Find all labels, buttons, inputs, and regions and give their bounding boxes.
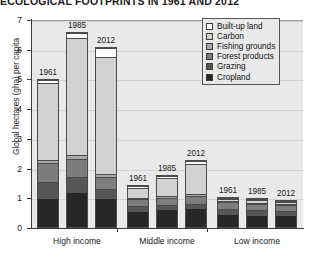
bar-column	[127, 20, 149, 228]
bar-year-label: 1961	[28, 68, 68, 77]
bar-segment	[96, 199, 116, 227]
legend-label: Carbon	[217, 32, 244, 41]
stacked-bar[interactable]	[66, 32, 88, 228]
x-axis-line	[31, 228, 304, 229]
stacked-bar[interactable]	[37, 79, 59, 228]
bar-segment	[128, 212, 148, 227]
bar-segment	[38, 163, 58, 181]
bar-segment	[218, 215, 238, 227]
bar-year-label: 2012	[266, 189, 306, 198]
y-tick	[27, 20, 31, 21]
y-tick-label: 4	[0, 105, 22, 113]
y-tick	[27, 139, 31, 140]
bar-year-label: 1961	[118, 174, 158, 183]
x-tick	[117, 229, 118, 232]
legend-label: Fishing grounds	[217, 42, 275, 51]
legend-item[interactable]: Built-up land	[206, 21, 275, 31]
bar-segment	[96, 48, 116, 58]
bar-year-label: 2012	[176, 149, 216, 158]
bar-segment	[67, 177, 87, 193]
bar-column	[37, 20, 59, 228]
legend-item[interactable]: Cropland	[206, 72, 275, 82]
x-group-label: Low income	[202, 236, 312, 246]
legend-item[interactable]: Forest products	[206, 52, 275, 62]
bar-column	[95, 20, 117, 228]
legend-swatch-icon	[206, 33, 213, 40]
stacked-bar[interactable]	[185, 160, 207, 228]
bar-year-label: 1985	[147, 164, 187, 173]
legend-item[interactable]: Fishing grounds	[206, 41, 275, 51]
bar-segment	[276, 216, 296, 227]
bar-segment	[218, 202, 238, 209]
legend-swatch-icon	[206, 23, 213, 30]
bar-segment	[186, 209, 206, 227]
bar-segment	[38, 83, 58, 161]
legend-swatch-icon	[206, 43, 213, 50]
legend-item[interactable]: Grazing	[206, 62, 275, 72]
y-tick	[27, 228, 31, 229]
stacked-bar[interactable]	[95, 47, 117, 228]
bar-segment	[67, 159, 87, 177]
legend-label: Built-up land	[217, 22, 263, 31]
bar-column	[156, 20, 178, 228]
y-tick-label: 7	[0, 16, 22, 24]
bar-segment	[186, 164, 206, 194]
legend-swatch-icon	[206, 63, 213, 70]
bar-segment	[128, 199, 148, 206]
y-tick-label: 0	[0, 224, 22, 232]
bar-segment	[186, 196, 206, 204]
legend-label: Cropland	[217, 73, 250, 82]
y-tick-label: 3	[0, 135, 22, 143]
bar-segment	[96, 189, 116, 199]
y-tick-label: 5	[0, 75, 22, 83]
chart-figure: ECOLOGICAL FOOTPRINTS IN 1961 AND 2012 G…	[0, 0, 316, 261]
x-tick	[207, 229, 208, 232]
legend: Built-up landCarbonFishing groundsForest…	[202, 18, 280, 85]
legend-item[interactable]: Carbon	[206, 31, 275, 41]
bar-segment	[157, 198, 177, 205]
stacked-bar[interactable]	[127, 185, 149, 228]
bar-segment	[96, 57, 116, 173]
stacked-bar[interactable]	[156, 175, 178, 228]
y-tick	[27, 169, 31, 170]
bar-segment	[247, 216, 267, 227]
y-tick	[27, 109, 31, 110]
y-tick	[27, 50, 31, 51]
bar-column	[66, 20, 88, 228]
bar-segment	[128, 188, 148, 198]
bar-segment	[96, 177, 116, 189]
chart-title: ECOLOGICAL FOOTPRINTS IN 1961 AND 2012	[0, 0, 300, 7]
y-tick-label: 6	[0, 46, 22, 54]
y-axis-line	[31, 19, 32, 229]
bar-segment	[67, 38, 87, 156]
bar-year-label: 1985	[57, 21, 97, 30]
y-axis-label: Global hectares (gha) per capita	[12, 22, 21, 172]
stacked-bar[interactable]	[217, 197, 239, 228]
y-tick	[27, 79, 31, 80]
bar-segment	[67, 193, 87, 227]
legend-label: Grazing	[217, 62, 246, 71]
bar-segment	[38, 199, 58, 227]
legend-label: Forest products	[217, 52, 274, 61]
legend-swatch-icon	[206, 74, 213, 81]
stacked-bar[interactable]	[275, 200, 297, 228]
y-tick-label: 1	[0, 194, 22, 202]
bar-segment	[38, 182, 58, 200]
bar-segment	[157, 178, 177, 196]
legend-swatch-icon	[206, 53, 213, 60]
y-tick-label: 2	[0, 165, 22, 173]
y-tick	[27, 198, 31, 199]
bar-segment	[157, 210, 177, 227]
bar-year-label: 2012	[86, 36, 126, 45]
stacked-bar[interactable]	[246, 198, 268, 228]
